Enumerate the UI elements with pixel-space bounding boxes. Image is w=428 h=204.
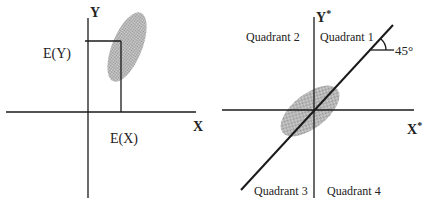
expected-x-label: E(X) — [110, 131, 138, 147]
y-star-axis-label: Y* — [316, 8, 331, 25]
right-panel: Y* X* Quadrant 1 Quadrant 2 Quadrant 3 Q… — [222, 8, 422, 198]
quadrant-2-label: Quadrant 2 — [246, 30, 300, 44]
quadrant-3-label: Quadrant 3 — [254, 184, 308, 198]
left-panel: Y X E(Y) E(X) — [6, 5, 203, 198]
diagonal-45-line — [241, 25, 393, 190]
angle-arc — [381, 39, 386, 50]
x-star-axis-label: X* — [407, 120, 422, 137]
y-axis-label: Y — [90, 5, 100, 20]
x-axis-label: X — [193, 119, 203, 134]
quadrant-4-label: Quadrant 4 — [327, 184, 381, 198]
diagram-canvas: Y X E(Y) E(X) Y* X* Quadrant 1 Quadrant … — [0, 0, 428, 204]
joint-distribution-ellipse — [99, 7, 155, 87]
expected-y-label: E(Y) — [43, 46, 71, 62]
quadrant-1-label: Quadrant 1 — [320, 30, 374, 44]
angle-label: 45° — [395, 43, 413, 58]
